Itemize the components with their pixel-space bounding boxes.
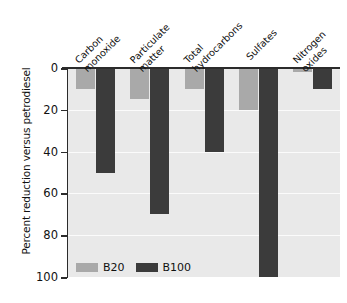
bar-b100-sulfates <box>259 68 278 277</box>
y-tick-mark <box>61 193 67 195</box>
x-category-label-sulfates: Sulfates <box>244 27 280 63</box>
y-tick-label: 40 <box>18 145 58 159</box>
y-tick-label: 0 <box>18 61 58 75</box>
bar-b20-sulfates <box>239 68 258 110</box>
bar-b20-particulate-matter <box>130 68 149 99</box>
plot-area <box>68 68 340 277</box>
legend-label: B100 <box>163 261 192 274</box>
y-tick-label: 60 <box>18 186 58 200</box>
y-tick-mark <box>61 110 67 112</box>
bar-chart: Percent reduction versus petrodiesel 020… <box>0 0 347 303</box>
bar-b100-particulate-matter <box>150 68 169 214</box>
y-tick-mark <box>61 152 67 154</box>
y-tick-label: 100 <box>18 270 58 284</box>
y-tick-label: 20 <box>18 103 58 117</box>
chart-legend: B20B100 <box>76 261 191 274</box>
bar-b100-nitrogen-oxides <box>313 68 332 89</box>
y-tick-mark <box>61 68 67 70</box>
legend-swatch-icon <box>76 263 98 272</box>
x-category-label-total-hydrocarbons: Totalhydrocarbons <box>182 11 245 74</box>
legend-entry-b20[interactable]: B20 <box>76 261 125 274</box>
y-tick-label: 80 <box>18 228 58 242</box>
x-category-label-line: Sulfates <box>244 27 280 63</box>
bar-b100-total-hydrocarbons <box>205 68 224 152</box>
gridline <box>68 235 340 236</box>
gridline <box>68 193 340 194</box>
y-tick-mark <box>61 235 67 237</box>
legend-entry-b100[interactable]: B100 <box>136 261 192 274</box>
y-tick-mark <box>61 277 67 279</box>
legend-label: B20 <box>103 261 125 274</box>
legend-swatch-icon <box>136 263 158 272</box>
bar-b100-carbon-monoxide <box>96 68 115 173</box>
